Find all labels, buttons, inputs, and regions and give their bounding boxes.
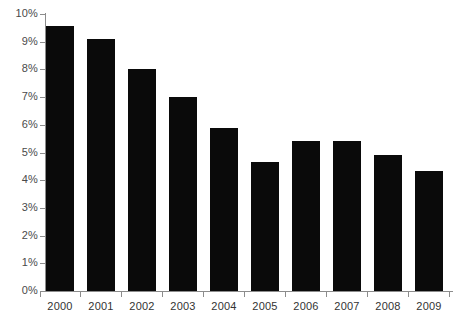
bar — [374, 155, 402, 291]
x-axis-tick — [203, 292, 204, 297]
x-axis-tick-label: 2002 — [122, 301, 163, 312]
x-axis-tick-label: 2000 — [40, 301, 81, 312]
y-axis-labels: 0%1%2%3%4%5%6%7%8%9%10% — [0, 0, 38, 329]
x-axis-tick-label: 2003 — [163, 301, 204, 312]
bar — [292, 141, 320, 291]
x-axis-tick — [326, 292, 327, 297]
x-axis-tick — [80, 292, 81, 297]
y-axis-tick-label: 7% — [2, 91, 38, 102]
x-axis-line — [45, 291, 453, 292]
x-axis-tick — [449, 292, 450, 297]
x-axis-tick-label: 2004 — [204, 301, 245, 312]
x-axis-tick-label: 2009 — [409, 301, 450, 312]
bar — [251, 162, 279, 291]
y-axis-tick-label: 6% — [2, 119, 38, 130]
x-axis-tick-label: 2007 — [327, 301, 368, 312]
bar-series — [46, 14, 452, 291]
x-axis-tick — [367, 292, 368, 297]
x-axis-tick — [40, 292, 41, 297]
plot-area — [46, 14, 452, 291]
y-axis-tick-label: 5% — [2, 147, 38, 158]
x-axis-tick — [408, 292, 409, 297]
x-axis-tick — [244, 292, 245, 297]
bar — [415, 171, 443, 291]
x-axis-tick — [285, 292, 286, 297]
y-axis-tick-label: 0% — [2, 285, 38, 296]
x-axis-tick — [121, 292, 122, 297]
bar — [169, 97, 197, 291]
bar — [210, 128, 238, 291]
x-axis-tick-label: 2008 — [368, 301, 409, 312]
x-axis-tick-label: 2005 — [245, 301, 286, 312]
y-axis-tick-label: 2% — [2, 230, 38, 241]
bar — [128, 69, 156, 291]
y-axis-tick-label: 10% — [2, 8, 38, 19]
y-axis-tick-label: 3% — [2, 202, 38, 213]
x-axis-tick-label: 2001 — [81, 301, 122, 312]
bar — [333, 141, 361, 291]
y-axis-tick-label: 8% — [2, 63, 38, 74]
y-axis-tick-label: 9% — [2, 36, 38, 47]
y-axis-tick-label: 1% — [2, 257, 38, 268]
bar — [46, 26, 74, 291]
x-axis-tick — [162, 292, 163, 297]
y-axis-tick-label: 4% — [2, 174, 38, 185]
bar — [87, 39, 115, 291]
x-axis-tick-label: 2006 — [286, 301, 327, 312]
bar-chart: 0%1%2%3%4%5%6%7%8%9%10% 2000200120022003… — [0, 0, 463, 329]
